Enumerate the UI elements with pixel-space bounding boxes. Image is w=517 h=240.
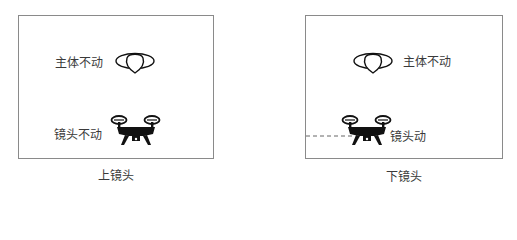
left-caption: 上镜头 [98, 166, 134, 183]
subject-icon [353, 52, 395, 76]
right-subject-label: 主体不动 [403, 55, 451, 69]
right-camera-label: 镜头动 [390, 130, 426, 144]
left-camera-label: 镜头不动 [54, 128, 102, 142]
right-caption: 下镜头 [386, 167, 422, 184]
subject-icon [115, 52, 157, 76]
drone-icon [110, 115, 162, 147]
drone-icon [341, 115, 393, 147]
left-subject-label: 主体不动 [55, 56, 103, 70]
